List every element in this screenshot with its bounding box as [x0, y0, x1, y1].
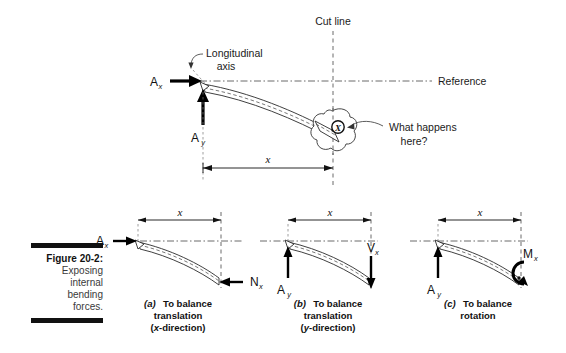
panel-b-caption-line1: (b) To balance	[294, 293, 363, 310]
caption-bar-top	[31, 243, 103, 248]
panel-b-beam	[285, 240, 369, 285]
panel-a-caption-line1: (a) To balance	[144, 293, 212, 310]
panel-c-internal-subscript: x	[533, 254, 538, 263]
panel-a-force-arrowhead	[126, 237, 137, 246]
panel-b-dimension-label: x	[327, 206, 333, 218]
panel-b-force-label: A	[277, 283, 285, 297]
longitudinal-axis-leader-arrowhead	[188, 63, 193, 69]
panel-a-caption-line2: translation	[154, 310, 203, 321]
figure-20-2: Cut line Reference Longitudinal axis	[0, 0, 566, 353]
panel-a-dimension-label: x	[177, 206, 183, 218]
panel-b-caption-text1: To balance	[313, 298, 362, 309]
panel-c-caption-text1: To balance	[463, 298, 512, 309]
longitudinal-axis-label-line1: Longitudinal	[206, 47, 263, 59]
force-ay-top: A y	[191, 89, 209, 147]
panel-b-caption-direction-suffix: -direction)	[309, 322, 355, 333]
panel-c-force-subscript: y	[436, 290, 442, 299]
panel-a-dimension-arrowhead-left	[138, 218, 146, 223]
panel-b-force-subscript: y	[286, 290, 292, 299]
reference-label: Reference	[438, 75, 487, 87]
panel-c-caption-line1: (c) To balance	[444, 293, 512, 310]
cut-line-label: Cut line	[315, 15, 351, 27]
panel-a-internal-subscript: x	[258, 282, 263, 291]
panel-c-force-applied: A y	[427, 246, 443, 299]
panel-c-dimension-arrowhead-left	[438, 218, 446, 223]
force-ay-label: A	[191, 131, 199, 145]
panel-a-internal-arrowhead	[219, 278, 230, 287]
figure-caption-line-2: internal	[70, 277, 103, 288]
panel-a-internal-label: N	[250, 275, 259, 289]
cut-marker-x-label: X	[334, 123, 342, 133]
panel-a-caption-line3: (x-direction)	[151, 322, 206, 333]
force-ax-top: A x	[150, 75, 202, 91]
longitudinal-axis-label-line2: axis	[217, 60, 236, 72]
figure-caption-line-3: bending	[67, 289, 103, 300]
callout-line1: What happens	[389, 121, 457, 133]
panel-a-beam	[135, 240, 219, 285]
panel-b-dimension-arrowhead-right	[363, 218, 371, 223]
figure-caption-block: Figure 20-2: Exposing internal bending f…	[31, 243, 103, 323]
callout-line2: here?	[401, 135, 428, 147]
panel-b-tag: (b)	[294, 298, 306, 309]
panel-b-dimension-arrowhead-left	[288, 218, 296, 223]
panel-a-force-label: A	[96, 234, 104, 248]
panel-c-dimension-label: x	[477, 206, 483, 218]
panel-c-tag: (c)	[444, 298, 456, 309]
panel-c-internal-label: M	[523, 247, 533, 261]
caption-bar-bottom	[31, 318, 103, 323]
panel-a-caption-direction-suffix: -direction)	[159, 322, 205, 333]
panel-c-internal-moment: M x	[513, 247, 538, 286]
panel-c-moment-pivot-dot	[517, 276, 520, 279]
dimension-x-arrowhead-right	[324, 165, 333, 171]
panel-a: x A x N x (a)	[96, 206, 263, 333]
dimension-x-label: x	[265, 153, 271, 165]
panel-b-internal-force: V x	[367, 241, 380, 289]
panel-b-force-applied: A y	[277, 246, 293, 299]
panel-a-tag: (a)	[144, 298, 156, 309]
panel-a-internal-force: N x	[219, 275, 263, 291]
force-ax-subscript: x	[158, 82, 163, 91]
figure-caption-line-1: Exposing	[62, 265, 103, 276]
panel-b: x A y V x (b) To balan	[260, 206, 379, 333]
panel-a-dimension-arrowhead-right	[213, 218, 221, 223]
panel-b-caption-line3: (y-direction)	[301, 322, 356, 333]
figure-canvas: Cut line Reference Longitudinal axis	[0, 0, 566, 353]
panel-b-internal-subscript: x	[374, 248, 379, 257]
dimension-x-arrowhead-left	[203, 165, 212, 171]
panel-c: x A y M x (c)	[410, 206, 538, 321]
figure-caption-line-4: forces.	[73, 301, 103, 312]
panel-c-beam	[435, 240, 519, 285]
panel-a-force-subscript: x	[104, 241, 109, 250]
panel-c-caption-line2: rotation	[460, 310, 496, 321]
panel-b-caption-line2: translation	[304, 310, 353, 321]
figure-caption-label: Figure 20-2:	[46, 253, 103, 264]
panel-c-beam-body	[438, 242, 519, 285]
panel-c-force-label: A	[427, 283, 435, 297]
panel-a-caption-text1: To balance	[163, 298, 212, 309]
panel-a-force-applied: A x	[96, 234, 137, 250]
force-ax-label: A	[150, 75, 158, 89]
panel-c-dimension-arrowhead-right	[513, 218, 521, 223]
longitudinal-axis-leader	[191, 54, 203, 64]
top-panel: Cut line Reference Longitudinal axis	[150, 15, 487, 187]
panel-b-beam-body	[288, 242, 369, 285]
force-ax-arrowhead	[189, 75, 202, 87]
panel-a-beam-body	[138, 242, 219, 285]
panel-b-internal-label: V	[367, 241, 375, 255]
